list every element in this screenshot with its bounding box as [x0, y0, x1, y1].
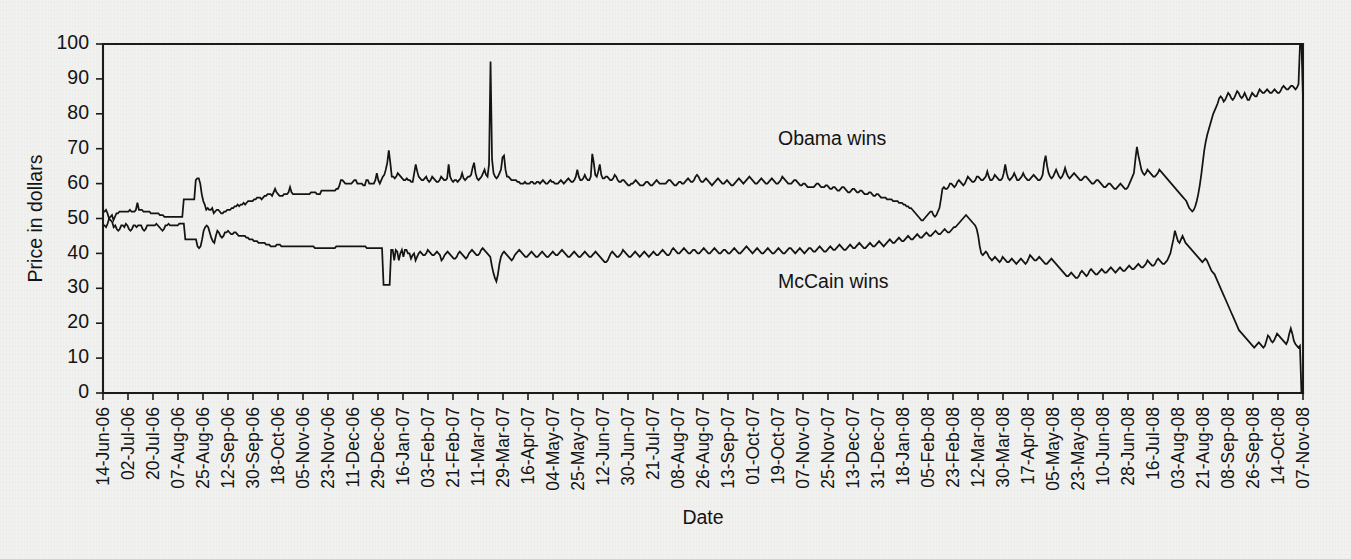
x-tick-label: 07-Nov-07	[793, 407, 813, 489]
y-tick-label: 20	[67, 310, 89, 332]
figure-canvas: 0102030405060708090100 Price in dollars …	[0, 0, 1351, 559]
x-tick-label: 14-Oct-08	[1268, 407, 1288, 485]
x-tick-label: 04-May-07	[543, 407, 563, 491]
x-tick-label: 10-Jun-08	[1093, 407, 1113, 486]
x-tick-label: 07-Aug-06	[168, 407, 188, 489]
y-tick-label: 10	[67, 345, 89, 367]
x-tick-label: 13-Dec-07	[843, 407, 863, 489]
y-tick-label: 0	[78, 380, 89, 402]
x-tick-label: 16-Jul-08	[1143, 407, 1163, 480]
x-tick-label: 25-May-07	[568, 407, 588, 491]
x-tick-label: 23-Nov-06	[318, 407, 338, 489]
x-tick-label: 25-Nov-07	[818, 407, 838, 489]
y-tick-label: 70	[67, 136, 89, 158]
y-tick-labels: 0102030405060708090100	[56, 31, 89, 402]
x-tick-label: 03-Aug-08	[1168, 407, 1188, 489]
y-axis-group: 0102030405060708090100 Price in dollars	[24, 31, 103, 402]
x-tick-label: 12-Jun-07	[593, 407, 613, 486]
x-tick-label: 23-May-08	[1068, 407, 1088, 491]
x-tick-label: 12-Sep-06	[218, 407, 238, 489]
x-tick-label: 16-Apr-07	[518, 407, 538, 485]
series-lines	[103, 44, 1303, 393]
x-tick-label: 30-Sep-06	[243, 407, 263, 489]
x-tick-label: 30-Mar-08	[993, 407, 1013, 488]
x-tick-label: 26-Sep-08	[1243, 407, 1263, 489]
x-tick-label: 01-Oct-07	[743, 407, 763, 485]
y-axis-title: Price in dollars	[24, 154, 46, 282]
x-tick-label: 21-Jul-07	[643, 407, 663, 480]
series-annotations: Obama winsMcCain wins	[778, 127, 889, 292]
plot-frame	[103, 44, 1303, 393]
x-tick-label: 05-May-08	[1043, 407, 1063, 491]
annotation-label: Obama wins	[778, 127, 887, 149]
annotation-label: McCain wins	[778, 270, 889, 292]
x-tick-label: 29-Mar-07	[493, 407, 513, 488]
x-tick-label: 21-Feb-07	[443, 407, 463, 488]
x-tick-label: 23-Feb-08	[943, 407, 963, 488]
y-tick-label: 80	[67, 101, 89, 123]
x-tick-label: 30-Jun-07	[618, 407, 638, 486]
x-tick-label: 16-Jan-07	[393, 407, 413, 486]
x-tick-label: 18-Jan-08	[893, 407, 913, 486]
x-tick-label: 11-Mar-07	[468, 407, 488, 486]
x-tick-label: 05-Feb-08	[918, 407, 938, 488]
x-tick-label: 20-Jul-06	[143, 407, 163, 480]
x-tick-label: 28-Jun-08	[1118, 407, 1138, 486]
y-tick-label: 40	[67, 241, 89, 263]
x-tick-label: 29-Dec-06	[368, 407, 388, 489]
y-tick-label: 100	[56, 31, 89, 53]
x-tick-label: 13-Sep-07	[718, 407, 738, 489]
y-tick-label: 90	[67, 66, 89, 88]
x-tick-label: 05-Nov-06	[293, 407, 313, 489]
y-tick-label: 60	[67, 171, 89, 193]
x-tick-label: 03-Feb-07	[418, 407, 438, 488]
price-chart: 0102030405060708090100 Price in dollars …	[0, 0, 1351, 559]
x-axis-title: Date	[682, 506, 723, 528]
x-tick-label: 02-Jul-06	[118, 407, 138, 480]
x-axis-group: 14-Jun-0602-Jul-0620-Jul-0607-Aug-0625-A…	[93, 393, 1313, 528]
x-tick-label: 08-Aug-07	[668, 407, 688, 489]
x-tick-labels: 14-Jun-0602-Jul-0620-Jul-0607-Aug-0625-A…	[93, 407, 1313, 491]
x-tick-label: 08-Sep-08	[1218, 407, 1238, 489]
x-tick-label: 07-Nov-08	[1293, 407, 1313, 489]
x-tick-label: 19-Oct-07	[768, 407, 788, 485]
y-tick-label: 30	[67, 275, 89, 297]
x-tick-label: 25-Aug-06	[193, 407, 213, 489]
x-tick-label: 14-Jun-06	[93, 407, 113, 486]
x-tick-label: 31-Dec-07	[868, 407, 888, 489]
series-line-mccain-wins	[103, 215, 1303, 393]
x-tick-label: 11-Dec-06	[343, 407, 363, 487]
x-tick-label: 18-Oct-06	[268, 407, 288, 485]
series-line-obama-wins	[103, 44, 1303, 220]
x-tick-label: 12-Mar-08	[968, 407, 988, 488]
x-tick-label: 26-Aug-07	[693, 407, 713, 489]
x-tick-label: 21-Aug-08	[1193, 407, 1213, 489]
y-tick-label: 50	[67, 206, 89, 228]
x-tick-label: 17-Apr-08	[1018, 407, 1038, 485]
